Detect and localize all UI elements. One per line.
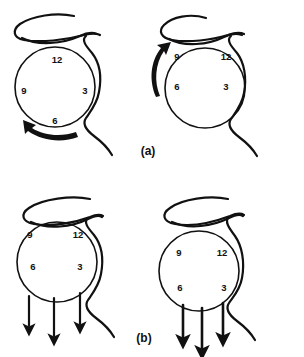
panel-label-b: (b) <box>136 331 151 345</box>
clock-number-9: 9 <box>27 229 32 240</box>
clock-number-12: 12 <box>73 229 84 240</box>
clock-number-12: 12 <box>217 247 228 258</box>
clock-number-6: 6 <box>174 81 179 92</box>
clock-number-12: 12 <box>221 51 232 62</box>
clock-number-3: 3 <box>221 282 226 293</box>
clock-number-6: 6 <box>177 282 182 293</box>
background <box>0 0 304 357</box>
figure-canvas: 12 3 6 9 9 12 6 3 9 12 6 3 <box>0 0 304 357</box>
panel-label-a: (a) <box>141 144 156 158</box>
clock-number-9: 9 <box>176 247 181 258</box>
clock-number-9: 9 <box>174 51 179 62</box>
clock-number-3: 3 <box>77 261 82 272</box>
clock-number-3: 3 <box>223 81 228 92</box>
clock-number-6: 6 <box>30 261 35 272</box>
clock-number-9: 9 <box>21 85 26 96</box>
diagram-svg: 12 3 6 9 9 12 6 3 9 12 6 3 <box>0 0 304 357</box>
clock-number-3: 3 <box>82 85 87 96</box>
clock-number-12: 12 <box>52 54 63 65</box>
clock-number-6: 6 <box>52 115 57 126</box>
